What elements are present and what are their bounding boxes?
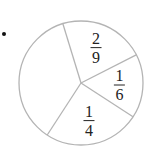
fraction-numerator: 2 bbox=[92, 30, 100, 47]
fraction-denominator: 4 bbox=[85, 122, 93, 139]
pie-chart-svg: 291614 bbox=[0, 0, 150, 147]
slices-layer bbox=[19, 21, 143, 145]
slice-label-2-9: 29 bbox=[91, 30, 102, 66]
fraction-denominator: 9 bbox=[92, 49, 100, 66]
pie-chart: 291614 bbox=[0, 0, 150, 147]
slice-label-1-4: 14 bbox=[83, 103, 94, 139]
slice-label-1-6: 16 bbox=[114, 67, 125, 103]
fraction-numerator: 1 bbox=[115, 67, 123, 84]
fraction-numerator: 1 bbox=[85, 103, 93, 120]
fraction-denominator: 6 bbox=[115, 86, 123, 103]
